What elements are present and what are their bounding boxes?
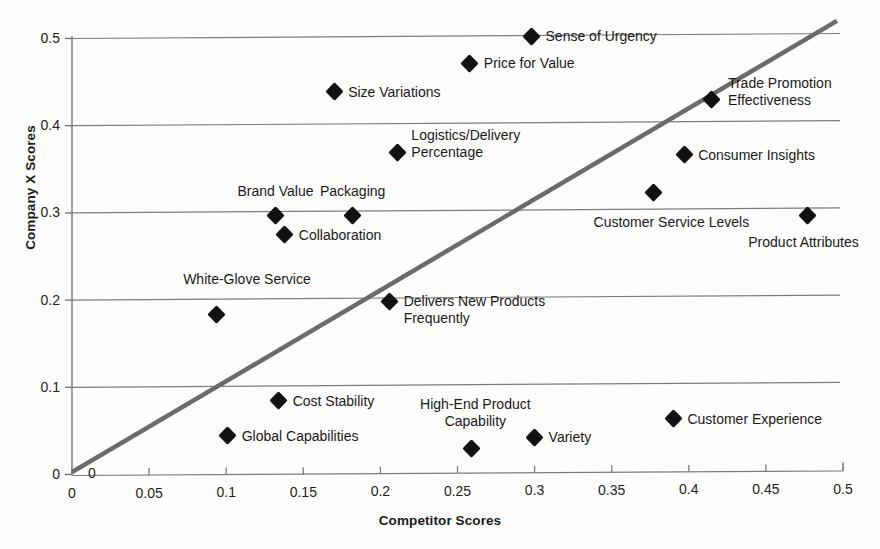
data-point-marker[interactable] (522, 27, 540, 45)
data-point-label: Packaging (320, 182, 385, 199)
data-point-label: Customer Experience (687, 410, 822, 427)
data-point-label: Variety (549, 429, 592, 446)
origin-overlap-label: 0 (88, 465, 96, 481)
data-point-marker[interactable] (266, 207, 284, 225)
scatter-chart-screenshot: 00.10.20.30.40.500.050.10.150.20.250.30.… (0, 0, 880, 549)
data-point-label: Size Variations (348, 83, 440, 100)
data-point-marker[interactable] (461, 54, 479, 72)
x-tick-label-0.05: 0.05 (135, 485, 162, 501)
data-point-marker[interactable] (208, 305, 226, 323)
x-tick-label-0.45: 0.45 (752, 481, 779, 497)
data-point-marker[interactable] (462, 439, 480, 457)
x-tick-label-0.2: 0.2 (371, 483, 390, 499)
y-tick-label-0: 0 (52, 466, 60, 482)
data-point-marker[interactable] (343, 207, 361, 225)
x-axis-title: Competitor Scores (0, 513, 880, 528)
data-point-label: Brand Value (238, 182, 314, 199)
data-point-marker[interactable] (325, 83, 343, 101)
data-point-label: Trade Promotion Effectiveness (728, 75, 832, 109)
data-point-label: Customer Service Levels (594, 214, 750, 231)
data-point-marker[interactable] (269, 391, 287, 409)
y-tick-label-0.1: 0.1 (41, 379, 60, 395)
data-point-marker[interactable] (664, 410, 682, 428)
x-tick-label-0.35: 0.35 (598, 482, 625, 498)
x-tick-label-0.25: 0.25 (444, 483, 471, 499)
data-point-marker[interactable] (675, 146, 693, 164)
data-point-label: Product Attributes (748, 233, 859, 250)
data-point-marker[interactable] (388, 143, 406, 161)
data-point-label: White-Glove Service (183, 271, 311, 288)
data-point-label: Logistics/Delivery Percentage (411, 127, 520, 161)
data-point-label: Price for Value (484, 55, 575, 72)
y-tick-label-0.2: 0.2 (41, 292, 60, 308)
y-tick-label-0.3: 0.3 (41, 204, 60, 220)
data-point-marker[interactable] (798, 207, 816, 225)
y-axis-title: Company X Scores (23, 78, 38, 298)
data-point-label: Sense of Urgency (546, 28, 657, 45)
data-point-marker[interactable] (525, 428, 543, 446)
data-point-label: Consumer Insights (698, 146, 815, 163)
data-point-marker[interactable] (703, 91, 721, 109)
x-tick-label-0.15: 0.15 (290, 484, 317, 500)
data-point-label: High-End Product Capability (420, 396, 531, 430)
y-tick-label-0.4: 0.4 (41, 117, 60, 133)
data-point-marker[interactable] (276, 226, 294, 244)
data-point-label: Global Capabilities (242, 427, 359, 444)
x-tick-label-0.4: 0.4 (679, 481, 698, 497)
data-point-label: Collaboration (299, 226, 382, 243)
data-point-marker[interactable] (380, 292, 398, 310)
plot-area: 00.10.20.30.40.500.050.10.150.20.250.30.… (0, 0, 880, 549)
data-point-marker[interactable] (644, 183, 662, 201)
x-tick-label-0.3: 0.3 (525, 482, 544, 498)
data-point-marker[interactable] (219, 426, 237, 444)
y-tick-label-0.5: 0.5 (41, 30, 60, 46)
x-tick-label-0: 0 (68, 485, 76, 501)
x-tick-label-0.1: 0.1 (216, 484, 235, 500)
data-point-label: Cost Stability (293, 392, 375, 409)
x-tick-label-0.5: 0.5 (833, 481, 852, 497)
data-point-label: Delivers New Products Frequently (404, 293, 546, 327)
